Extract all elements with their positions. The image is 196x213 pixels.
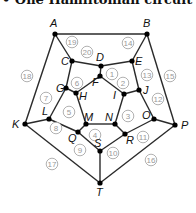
node-E: E <box>129 55 143 67</box>
weight-18: 18 <box>21 70 33 82</box>
svg-text:S: S <box>94 137 102 149</box>
svg-text:Q: Q <box>68 132 77 144</box>
node-A: A <box>49 17 58 37</box>
weight-17: 17 <box>46 158 58 170</box>
svg-text:I: I <box>113 89 116 101</box>
node-O: O <box>142 109 157 122</box>
svg-text:19: 19 <box>68 38 77 47</box>
svg-text:15: 15 <box>166 72 175 81</box>
weight-12: 12 <box>152 93 164 105</box>
svg-text:R: R <box>126 134 134 146</box>
node-S: S <box>94 137 103 154</box>
svg-text:12: 12 <box>154 95 163 104</box>
edge-T-K <box>25 124 100 183</box>
weight-15: 15 <box>164 70 176 82</box>
node-P: P <box>172 119 189 131</box>
node-C: C <box>61 55 75 67</box>
svg-text:D: D <box>96 51 104 63</box>
svg-text:11: 11 <box>139 133 148 142</box>
node-H: H <box>73 90 87 102</box>
weight-13: 13 <box>141 69 153 81</box>
svg-text:6: 6 <box>75 79 80 88</box>
edge-I-N <box>115 94 124 124</box>
weight-5: 5 <box>63 106 75 118</box>
svg-text:A: A <box>49 17 57 29</box>
svg-text:P: P <box>181 119 189 131</box>
svg-text:G: G <box>56 82 65 94</box>
node-T: T <box>96 180 104 198</box>
weight-3: 3 <box>122 110 134 122</box>
svg-text:O: O <box>142 109 151 121</box>
svg-text:13: 13 <box>143 71 152 80</box>
hamiltonian-graph: 1920141815136127512384910111617 ABCDEFGH… <box>0 0 196 213</box>
svg-text:B: B <box>143 17 150 29</box>
edge-P-O <box>154 119 175 125</box>
weight-11: 11 <box>137 131 149 143</box>
svg-text:K: K <box>12 118 20 130</box>
weight-14: 14 <box>122 37 134 49</box>
svg-text:14: 14 <box>124 39 133 48</box>
weight-9: 9 <box>74 144 86 156</box>
weight-7: 7 <box>40 92 52 104</box>
node-Q: Q <box>68 129 81 144</box>
weight-1: 1 <box>106 68 118 80</box>
svg-text:2: 2 <box>121 79 126 88</box>
svg-text:8: 8 <box>54 124 59 133</box>
node-F: F <box>92 73 103 88</box>
svg-text:7: 7 <box>44 94 49 103</box>
edge-K-L <box>25 119 49 124</box>
weight-8: 8 <box>50 122 62 134</box>
svg-text:16: 16 <box>147 156 156 165</box>
weight-20: 20 <box>81 46 93 58</box>
svg-text:17: 17 <box>48 160 57 169</box>
svg-text:18: 18 <box>23 72 32 81</box>
svg-text:J: J <box>142 84 149 96</box>
weight-10: 10 <box>107 147 119 159</box>
edge-D-E <box>101 61 132 66</box>
svg-text:E: E <box>135 55 143 67</box>
svg-text:C: C <box>61 55 69 67</box>
svg-text:5: 5 <box>67 108 72 117</box>
svg-text:9: 9 <box>78 146 83 155</box>
weight-6: 6 <box>71 77 83 89</box>
weight-16: 16 <box>145 154 157 166</box>
node-L: L <box>42 105 52 122</box>
node-K: K <box>12 118 28 130</box>
svg-text:H: H <box>79 90 87 102</box>
svg-text:M: M <box>84 111 94 123</box>
weight-19: 19 <box>66 36 78 48</box>
svg-text:T: T <box>96 186 104 198</box>
node-R: R <box>122 131 134 146</box>
svg-text:N: N <box>105 111 113 123</box>
svg-text:10: 10 <box>109 149 118 158</box>
svg-text:3: 3 <box>126 112 131 121</box>
svg-text:1: 1 <box>110 70 115 79</box>
svg-text:L: L <box>42 105 48 117</box>
weight-2: 2 <box>117 77 129 89</box>
svg-text:20: 20 <box>83 48 92 57</box>
